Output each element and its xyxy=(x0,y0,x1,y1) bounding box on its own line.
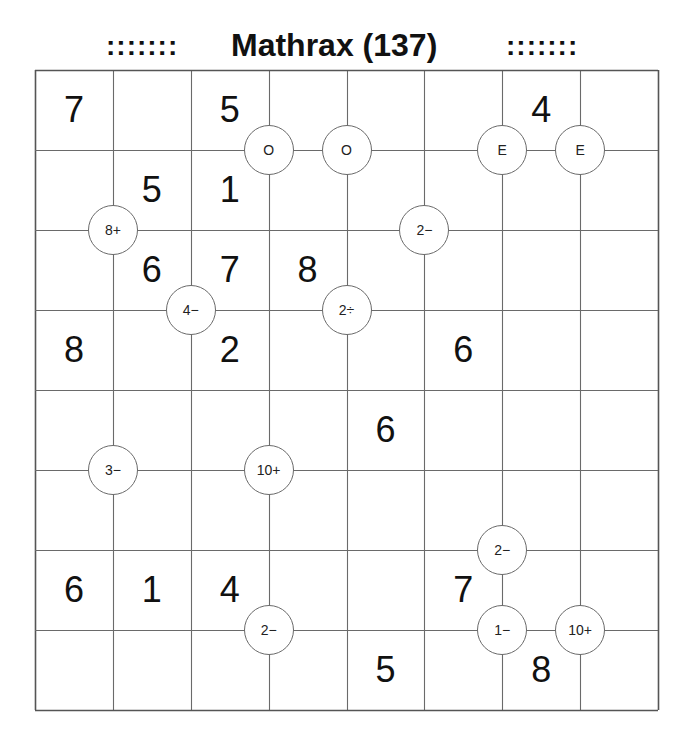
given-digit-cell[interactable]: 6 xyxy=(424,310,502,390)
puzzle-title: Mathrax (137) xyxy=(231,26,437,64)
empty-cell[interactable] xyxy=(113,70,191,150)
puzzle-header: ::::::: Mathrax (137) ::::::: xyxy=(0,26,688,66)
clue-circle-quotient: 2÷ xyxy=(322,285,372,335)
empty-cell[interactable] xyxy=(502,390,580,470)
given-digit-cell[interactable]: 1 xyxy=(113,550,191,630)
clue-circle-difference: 2− xyxy=(477,525,527,575)
clue-circle-sum: 10+ xyxy=(555,605,605,655)
clue-circle-difference: 4− xyxy=(166,285,216,335)
given-digit-cell[interactable]: 5 xyxy=(347,630,425,710)
given-digit-cell[interactable]: 8 xyxy=(35,310,113,390)
clue-circle-difference: 1− xyxy=(477,605,527,655)
empty-cell[interactable] xyxy=(113,630,191,710)
clue-circle-even: E xyxy=(477,125,527,175)
empty-cell[interactable] xyxy=(580,310,658,390)
clue-circle-odd: O xyxy=(244,125,294,175)
empty-cell[interactable] xyxy=(580,230,658,310)
empty-cell[interactable] xyxy=(580,470,658,550)
right-ornament: ::::::: xyxy=(506,28,578,64)
given-digit-cell[interactable]: 6 xyxy=(35,550,113,630)
empty-cell[interactable] xyxy=(35,630,113,710)
clue-circle-sum: 8+ xyxy=(88,205,138,255)
puzzle-grid: 754516788266614758OOEE8+2−4−2÷3−10+2−2−1… xyxy=(35,70,658,710)
empty-cell[interactable] xyxy=(424,390,502,470)
given-digit-cell[interactable]: 6 xyxy=(347,390,425,470)
empty-cell[interactable] xyxy=(502,230,580,310)
clue-circle-sum: 10+ xyxy=(244,445,294,495)
empty-cell[interactable] xyxy=(580,390,658,470)
clue-circle-even: E xyxy=(555,125,605,175)
empty-cell[interactable] xyxy=(347,470,425,550)
given-digit-cell[interactable]: 7 xyxy=(35,70,113,150)
clue-circle-odd: O xyxy=(322,125,372,175)
empty-cell[interactable] xyxy=(502,310,580,390)
empty-cell[interactable] xyxy=(347,550,425,630)
clue-circle-difference: 2− xyxy=(244,605,294,655)
left-ornament: ::::::: xyxy=(106,28,178,64)
clue-circle-difference: 3− xyxy=(88,445,138,495)
